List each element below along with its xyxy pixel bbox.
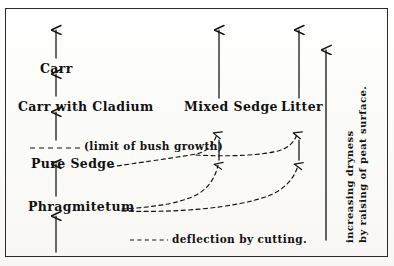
deflection-phragmitetum-to-mixed-sedge [122, 165, 218, 209]
stage-label-litter: Litter [281, 99, 323, 114]
stage-label-carr-with-cladium: Carr with Cladium [18, 99, 154, 114]
annotation-limit-of-bush-growth: (limit of bush growth) [84, 140, 223, 152]
diagram-page: Carr Carr with Cladium Pure Sedge Phragm… [0, 0, 394, 266]
legend-deflection-by-cutting: deflection by cutting. [172, 233, 307, 245]
axis-caption-increasing-dryness: increasing dryness [344, 130, 355, 243]
deflection-phragmitetum-to-litter [122, 165, 298, 211]
axis-caption-raising-of-peat-surface: by raising of peat surface. [357, 86, 368, 243]
stage-label-phragmitetum: Phragmitetum [28, 199, 135, 214]
stage-label-carr: Carr [40, 61, 73, 76]
stage-label-pure-sedge: Pure Sedge [31, 156, 115, 171]
diagram-vector-layer [0, 0, 394, 266]
stage-label-mixed-sedge: Mixed Sedge [184, 99, 278, 114]
